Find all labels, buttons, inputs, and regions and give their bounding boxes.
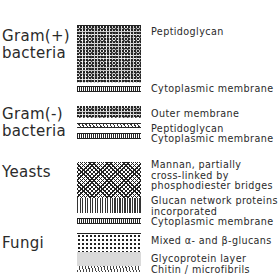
- layer-cytoplasmic-membrane: [77, 133, 141, 139]
- layer-peptidoglycan-thick: [77, 25, 141, 83]
- group-label-gram-positive: Gram(+) bacteria: [2, 28, 70, 62]
- label-line: Glucan network proteins: [151, 196, 278, 207]
- layer-cytoplasmic-membrane: [77, 86, 141, 92]
- label-chitin-microfibrils: Chitin / microfibrils: [151, 265, 250, 276]
- group-label-line: Gram(+): [2, 28, 70, 45]
- layer-glucan-network: [77, 198, 141, 213]
- group-label-line: bacteria: [2, 123, 66, 140]
- layer-mixed-glucans: [77, 233, 141, 253]
- label-peptidoglycan: Peptidoglycan: [151, 27, 224, 38]
- group-label-gram-negative: Gram(-) bacteria: [2, 106, 66, 140]
- layer-chitin-microfibrils: [77, 266, 141, 272]
- label-outer-membrane: Outer membrane: [151, 109, 239, 120]
- layer-glycoprotein: [77, 252, 141, 266]
- group-label-line: bacteria: [2, 45, 70, 62]
- label-glucan-network: Glucan network proteins incorporated: [151, 196, 278, 217]
- layer-outer-membrane: [77, 106, 141, 118]
- label-cytoplasmic-membrane: Cytoplasmic membrane: [151, 134, 273, 145]
- label-cytoplasmic-membrane: Cytoplasmic membrane: [151, 84, 273, 95]
- group-label-yeasts: Yeasts: [2, 164, 51, 181]
- group-label-line: Gram(-): [2, 106, 66, 123]
- label-cytoplasmic-membrane: Cytoplasmic membrane: [151, 217, 273, 228]
- label-mannan: Mannan, partially cross-linked by phosph…: [151, 160, 273, 192]
- label-line: Mannan, partially: [151, 160, 273, 171]
- group-label-line: Fungi: [2, 235, 44, 252]
- label-line: phosphodiester bridges: [151, 181, 273, 192]
- label-mixed-glucans: Mixed α- and β-glucans: [151, 236, 272, 247]
- label-glycoprotein: Glycoprotein layer: [151, 254, 246, 265]
- group-label-fungi: Fungi: [2, 235, 44, 252]
- group-label-line: Yeasts: [2, 164, 51, 181]
- layer-cytoplasmic-membrane: [77, 218, 141, 224]
- layer-mannan: [77, 162, 141, 198]
- layer-peptidoglycan-thin: [77, 123, 141, 128]
